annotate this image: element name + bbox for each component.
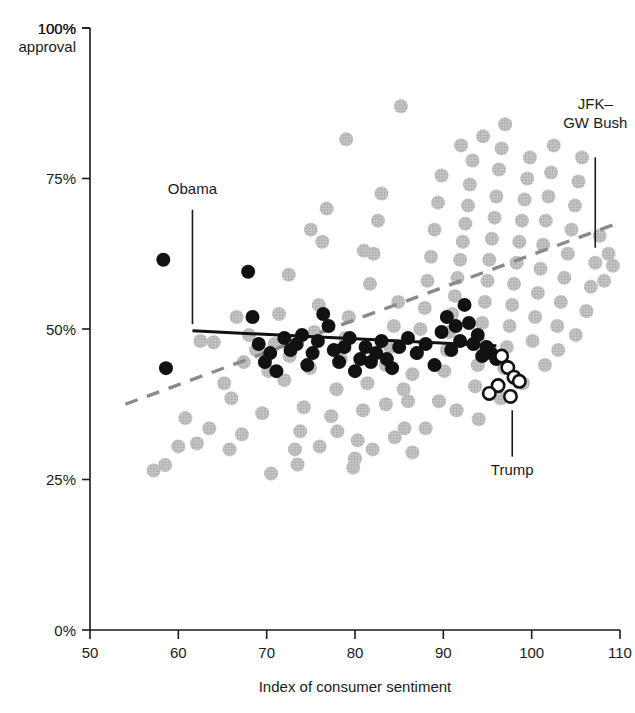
data-point xyxy=(512,235,526,249)
data-point xyxy=(330,424,344,438)
annotation-label-trump: Trump xyxy=(491,461,534,478)
data-point xyxy=(453,334,467,348)
data-point xyxy=(520,172,534,186)
data-point xyxy=(363,277,377,291)
x-tick-label: 100 xyxy=(519,644,544,661)
data-point xyxy=(264,466,278,480)
data-point xyxy=(488,211,502,225)
data-point xyxy=(584,280,598,294)
data-point xyxy=(432,394,446,408)
data-point xyxy=(485,232,499,246)
data-point xyxy=(304,223,318,237)
data-point xyxy=(246,310,260,324)
data-point xyxy=(456,235,470,249)
data-point xyxy=(550,319,564,333)
data-point xyxy=(405,445,419,459)
data-point xyxy=(348,451,362,465)
data-point xyxy=(461,199,475,213)
data-point xyxy=(561,247,575,261)
data-point xyxy=(300,358,314,372)
data-point xyxy=(458,298,472,312)
data-point xyxy=(602,247,616,261)
data-point xyxy=(230,310,244,324)
data-point xyxy=(171,439,185,453)
data-point xyxy=(387,319,401,333)
data-point xyxy=(351,433,365,447)
data-point xyxy=(492,162,506,176)
x-tick-label: 110 xyxy=(608,644,632,661)
data-point xyxy=(320,202,334,216)
data-point xyxy=(360,376,374,390)
data-point xyxy=(531,286,545,300)
data-point xyxy=(458,217,472,231)
data-points-obama xyxy=(156,253,503,378)
data-point xyxy=(293,424,307,438)
data-point xyxy=(217,376,231,390)
data-point xyxy=(193,334,207,348)
x-tick-label: 80 xyxy=(347,644,364,661)
data-point xyxy=(547,138,561,152)
data-point xyxy=(322,319,336,333)
annotations-layer: ObamaJFK–GW BushTrump xyxy=(168,95,627,477)
data-point xyxy=(401,394,415,408)
y-tick-label: 75% xyxy=(46,170,76,187)
x-tick-label: 50 xyxy=(82,644,99,661)
data-point xyxy=(453,253,467,267)
data-point xyxy=(597,274,611,288)
data-point xyxy=(463,178,477,192)
data-point xyxy=(202,421,216,435)
data-point xyxy=(332,355,346,369)
data-point xyxy=(297,400,311,414)
y-tick-label: 0% xyxy=(54,622,76,639)
data-point xyxy=(538,358,552,372)
data-point xyxy=(263,346,277,360)
data-point xyxy=(513,375,525,387)
data-point xyxy=(588,256,602,270)
data-point xyxy=(371,214,385,228)
data-points-jfk-gw-bush xyxy=(147,99,620,480)
data-point xyxy=(241,265,255,279)
data-point xyxy=(224,391,238,405)
data-point xyxy=(375,187,389,201)
data-point xyxy=(579,304,593,318)
data-point xyxy=(462,316,476,330)
data-point xyxy=(575,150,589,164)
data-point xyxy=(465,153,479,167)
data-point xyxy=(277,331,291,345)
data-point xyxy=(190,436,204,450)
data-point xyxy=(518,193,532,207)
data-point xyxy=(449,319,463,333)
data-point xyxy=(356,403,370,417)
data-point xyxy=(495,141,509,155)
data-point xyxy=(534,262,548,276)
y-axis-tick-labels: 0%25%50%75%100% xyxy=(38,20,76,639)
data-point xyxy=(272,307,286,321)
data-point xyxy=(223,442,237,456)
x-tick-label: 60 xyxy=(170,644,187,661)
data-point xyxy=(475,316,489,330)
data-point xyxy=(606,259,620,273)
y-axis-title-line2: approval xyxy=(18,38,76,55)
data-point xyxy=(505,298,519,312)
data-point xyxy=(489,190,503,204)
data-point xyxy=(431,196,445,210)
data-point xyxy=(428,223,442,237)
data-point xyxy=(478,295,492,309)
data-point xyxy=(178,411,192,425)
data-point xyxy=(557,271,571,285)
data-point xyxy=(468,379,482,393)
data-point xyxy=(504,390,516,402)
data-point xyxy=(388,430,402,444)
data-point xyxy=(571,175,585,189)
data-point xyxy=(476,129,490,143)
data-point xyxy=(541,190,555,204)
chart-canvas: 5060708090100110 0%25%50%75%100% ObamaJF… xyxy=(0,0,635,713)
data-point xyxy=(315,235,329,249)
data-point xyxy=(324,409,338,423)
annotation-label-obama: Obama xyxy=(168,180,218,197)
data-point xyxy=(450,403,464,417)
data-point xyxy=(252,337,266,351)
data-point xyxy=(288,442,302,456)
data-point xyxy=(435,168,449,182)
data-point xyxy=(339,132,353,146)
